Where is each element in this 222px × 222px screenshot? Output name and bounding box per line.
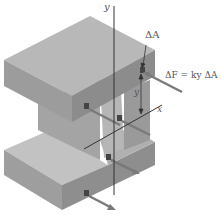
area-element-label: ΔA: [145, 30, 159, 40]
x-axis-label: x: [157, 105, 162, 114]
diagram-canvas: y x ΔA ΔF = ky ΔA y: [0, 0, 222, 222]
distance-y-label: y: [134, 88, 139, 97]
y-axis-label: y: [104, 2, 110, 12]
i-beam-section: [0, 0, 222, 222]
force-equation-label: ΔF = ky ΔA: [165, 71, 217, 80]
